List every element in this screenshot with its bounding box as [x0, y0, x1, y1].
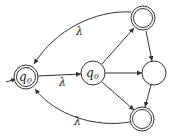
label-lambda-bottom: λ: [73, 115, 81, 128]
state-q0prime: q0 ′: [14, 65, 38, 89]
edge-top-mid: [146, 31, 152, 61]
label-lambda-mid: λ: [58, 76, 66, 89]
prime-mark: ′: [27, 66, 29, 76]
edge-mid-bottom: [145, 85, 151, 107]
state-q0: q0: [81, 61, 105, 85]
label-lambda-top: λ: [75, 25, 83, 38]
edge-q0-top: [102, 28, 134, 64]
automaton-diagram: q0 ′ q0 λ λ λ: [0, 0, 171, 140]
state-mid: [142, 61, 166, 85]
state-top-accepting: [131, 6, 155, 30]
state-bottom-accepting: [130, 107, 154, 131]
edge-q0-bottom: [102, 82, 134, 110]
